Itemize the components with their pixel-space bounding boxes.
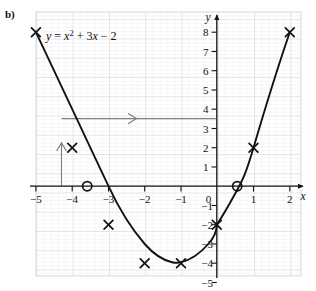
x-axis-label: x bbox=[299, 190, 306, 202]
y-tick-label: 2 bbox=[203, 142, 209, 154]
x-tick-label: −1 bbox=[175, 193, 187, 205]
x-tick-label: 1 bbox=[251, 193, 257, 205]
y-tick-label: −4 bbox=[201, 257, 213, 269]
y-tick-label: 3 bbox=[203, 123, 209, 135]
y-tick-label: −1 bbox=[201, 200, 213, 212]
x-tick-label: −2 bbox=[139, 193, 151, 205]
y-axis-label: y bbox=[204, 11, 211, 24]
y-tick-label: 7 bbox=[203, 46, 209, 58]
y-tick-label: 8 bbox=[203, 26, 209, 38]
y-tick-label: 4 bbox=[203, 103, 209, 115]
y-tick-label: 6 bbox=[203, 65, 209, 77]
x-tick-label: −4 bbox=[66, 193, 78, 205]
y-tick-label: 1 bbox=[203, 161, 209, 173]
x-tick-label: 2 bbox=[287, 193, 293, 205]
parabola-graph: −5 −4 −3 −2 −1 0 1 2 8 7 6 5 4 3 2 1 −1 … bbox=[0, 0, 316, 291]
x-tick-label: −5 bbox=[30, 193, 42, 205]
equation-label: y = x2 + 3x − 2 bbox=[45, 28, 117, 43]
y-tick-label: −2 bbox=[201, 219, 213, 231]
y-tick-label: −5 bbox=[201, 277, 213, 289]
figure-container: b) bbox=[0, 0, 316, 291]
y-tick-label: 5 bbox=[203, 84, 209, 96]
